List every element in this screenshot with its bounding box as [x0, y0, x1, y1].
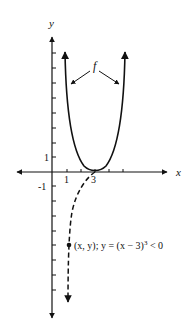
y-axis	[52, 37, 56, 318]
point-marker	[67, 243, 72, 248]
y-axis-label: y	[48, 17, 54, 29]
x-tick-label-1: 1	[64, 174, 69, 185]
f-pointer-right	[99, 71, 119, 84]
point-label-suffix: < 0	[147, 240, 163, 251]
y-tick-label-neg1: -1	[38, 181, 46, 192]
function-graph: y x f 1 -1 1 3 (x, y); y = (x − 3)3 < 0	[0, 0, 194, 323]
point-label-main: (x, y); y = (x − 3)	[74, 240, 144, 252]
curve-f-label: f	[93, 59, 98, 73]
f-pointer-left	[71, 71, 90, 84]
point-label: (x, y); y = (x − 3)3 < 0	[74, 239, 163, 252]
curve-cubic-dashed	[68, 172, 95, 302]
x-axis-label: x	[175, 166, 181, 178]
x-tick-label-3: 3	[91, 174, 96, 185]
y-tick-label-1: 1	[44, 152, 49, 163]
